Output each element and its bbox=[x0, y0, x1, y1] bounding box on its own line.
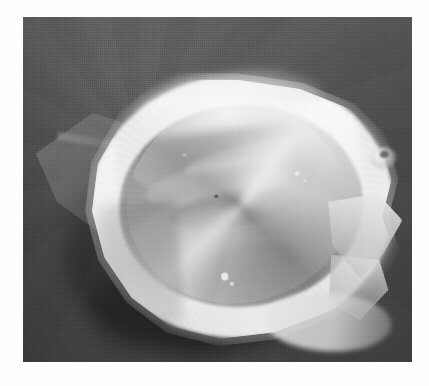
fibrous-ring bbox=[80, 65, 402, 348]
page-root: Grayscale close-up photograph of a pale … bbox=[0, 0, 429, 386]
fibrous-ring-lower-left-shade bbox=[87, 199, 186, 335]
photograph: Grayscale close-up photograph of a pale … bbox=[23, 17, 412, 362]
